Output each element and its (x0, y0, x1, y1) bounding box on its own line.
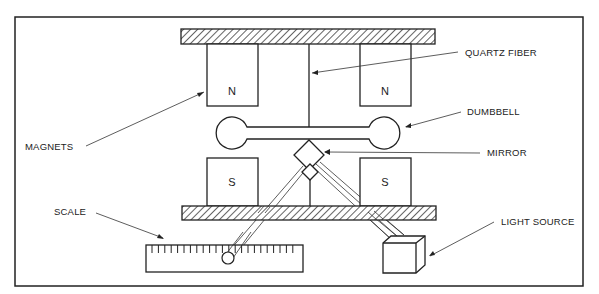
top-support-bar (181, 29, 435, 44)
label-magnets: MAGNETS (25, 92, 204, 152)
label-dumbbell: DUMBBELL (405, 106, 520, 128)
light-source-cube (383, 236, 425, 273)
pole-label-bottom-right: S (381, 176, 388, 188)
magnet-top-left: N (207, 44, 258, 106)
scale (146, 232, 303, 272)
pole-label-bottom-left: S (228, 176, 235, 188)
light-spot (222, 252, 234, 264)
scale-label: SCALE (54, 206, 86, 217)
label-quartz-fiber: QUARTZ FIBER (312, 47, 537, 75)
mirror-label: MIRROR (487, 147, 527, 158)
dumbbell (216, 117, 400, 149)
label-light-source: LIGHT SOURCE (429, 216, 575, 256)
magnet-top-right: N (360, 44, 411, 106)
mirror (294, 140, 324, 180)
dumbbell-label: DUMBBELL (467, 106, 520, 117)
bottom-support-bar (182, 206, 436, 220)
light-source-label: LIGHT SOURCE (501, 216, 575, 227)
quartz-fiber-label: QUARTZ FIBER (465, 47, 537, 58)
pole-label-top-right: N (381, 85, 389, 97)
magnet-bottom-right: S (360, 158, 411, 206)
pole-label-top-left: N (228, 85, 236, 97)
magnet-bottom-left: S (207, 158, 258, 206)
magnets-label: MAGNETS (25, 141, 73, 152)
diagram-canvas: N N S S (0, 0, 599, 294)
label-scale: SCALE (54, 206, 164, 239)
label-mirror: MIRROR (324, 147, 527, 158)
